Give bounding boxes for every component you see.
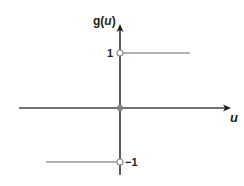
upper-open-circle <box>117 50 123 56</box>
step-function-diagram: g(u) u 1 −1 <box>0 0 244 186</box>
tick-label-lower: −1 <box>125 156 138 168</box>
x-axis-label: u <box>230 110 238 125</box>
y-axis-label: g(u) <box>93 14 116 28</box>
tick-label-upper: 1 <box>107 47 113 59</box>
origin-dot <box>117 105 123 111</box>
lower-open-circle <box>117 159 123 165</box>
